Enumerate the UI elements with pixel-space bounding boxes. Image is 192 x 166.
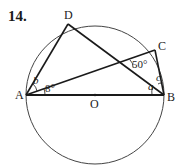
problem-number: 14. [8,8,27,24]
angle-b-label: b [33,74,39,86]
angle-8-label: 8° [45,82,55,94]
point-d-label: D [64,8,73,22]
point-a-label: A [15,88,24,102]
angle-c-arc [158,83,161,84]
point-c-label: C [158,39,166,53]
angle-c-label: c [156,71,161,83]
point-b-label: B [167,90,175,104]
geometry-diagram: 14. D C A B O b 8° 50° a c [0,0,192,166]
center-dot [94,94,96,96]
point-o-label: O [90,97,99,111]
angle-50-label: 50° [132,58,147,70]
angle-a-label: a [148,80,154,92]
